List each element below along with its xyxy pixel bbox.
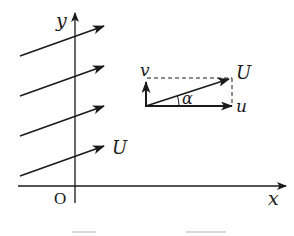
origin-label: O (54, 189, 66, 208)
u-label: u (236, 96, 247, 116)
streamline-arrow-2 (20, 66, 104, 96)
x-axis-label: x (268, 187, 279, 209)
y-axis-label: y (55, 9, 67, 31)
streamline-arrow-4 (20, 146, 104, 176)
velocity-decomposition: v U u α (140, 60, 252, 116)
angle-arc (178, 96, 180, 106)
resultant-label: U (236, 62, 252, 83)
flow-velocity-label: U (112, 137, 128, 158)
angle-label: α (182, 89, 193, 108)
v-label: v (140, 60, 150, 80)
caption-remnant (72, 231, 226, 233)
streamline-arrow-3 (20, 106, 104, 136)
flow-diagram: y x O U v U u α (0, 0, 294, 236)
streamlines: U (20, 26, 128, 176)
